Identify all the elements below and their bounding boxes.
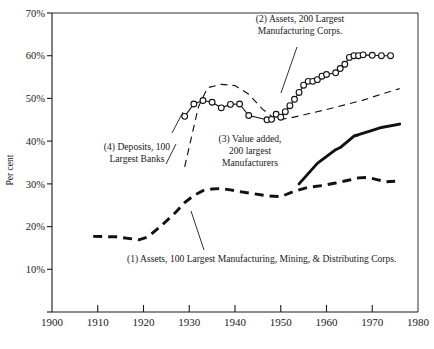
annotation-3-line-2: 200 largest [229, 145, 272, 156]
data-point-marker [246, 113, 252, 119]
x-tick-label: 1910 [87, 316, 110, 328]
x-tick-label: 1970 [361, 316, 384, 328]
data-point-marker [324, 72, 330, 78]
y-axis-ticks [47, 13, 52, 312]
data-point-marker [218, 105, 224, 111]
x-axis-ticks [98, 305, 373, 312]
x-axis-tick-labels: 1900 1910 1920 1930 1940 1950 1960 1970 … [41, 316, 430, 328]
series-4-deposits-100-largest-banks [185, 84, 400, 166]
y-axis-tick-labels: 10% 20% 30% 40% 50% 60% 70% [26, 8, 46, 275]
y-tick-label: 30% [26, 179, 46, 190]
data-point-marker [342, 61, 348, 67]
annotation-2-line-2: Manufacturing Corps. [258, 25, 343, 36]
annotation-4-line-1: (4) Deposits, 100 [104, 141, 171, 153]
annotation-2-line-1: (2) Assets, 200 Largest [256, 13, 345, 25]
x-tick-label: 1930 [178, 316, 201, 328]
chart-container: 10% 20% 30% 40% 50% 60% 70% 1900 1910 19… [0, 0, 434, 349]
data-point-marker [287, 103, 293, 109]
data-point-marker [228, 102, 234, 108]
y-tick-label: 50% [26, 93, 46, 104]
annotation-2: (2) Assets, 200 Largest Manufacturing Co… [256, 13, 345, 36]
y-tick-label: 10% [26, 264, 46, 275]
data-point-marker [379, 53, 385, 59]
x-tick-label: 1980 [407, 316, 430, 328]
y-tick-label: 40% [26, 136, 46, 147]
x-tick-label: 1940 [224, 316, 247, 328]
data-point-marker [360, 52, 366, 58]
y-axis-title: Per cent [5, 154, 15, 185]
data-point-marker [200, 98, 206, 104]
annotation-4-line-2: Largest Banks [110, 153, 165, 164]
x-tick-label: 1920 [133, 316, 156, 328]
series-2-markers [182, 52, 394, 123]
y-tick-label: 20% [26, 221, 46, 232]
data-point-marker [296, 90, 302, 96]
economic-concentration-line-chart: 10% 20% 30% 40% 50% 60% 70% 1900 1910 19… [0, 0, 434, 349]
annotation-4: (4) Deposits, 100 Largest Banks [104, 112, 183, 164]
annotation-3-line-1: (3) Value added, [219, 133, 282, 145]
data-point-marker [278, 114, 284, 120]
data-point-marker [237, 101, 243, 107]
series-1-assets-100-largest [93, 177, 395, 239]
annotation-1: (1) Assets, 100 Largest Manufacturing, M… [127, 253, 397, 265]
annotation-3: (3) Value added, 200 largest Manufacture… [219, 133, 282, 168]
data-point-marker [369, 52, 375, 58]
annotation-3-line-3: Manufacturers [222, 157, 278, 168]
y-tick-label: 70% [26, 8, 46, 19]
x-tick-label: 1960 [316, 316, 339, 328]
data-point-marker [292, 96, 298, 102]
data-point-marker [182, 113, 188, 119]
series-3-value-added-200-largest [299, 124, 400, 184]
x-tick-label: 1900 [41, 316, 64, 328]
data-point-marker [209, 99, 215, 105]
x-tick-label: 1950 [270, 316, 293, 328]
data-point-marker [388, 53, 394, 59]
data-point-marker [191, 101, 197, 107]
y-tick-label: 60% [26, 50, 46, 61]
data-point-marker [269, 116, 275, 122]
data-point-marker [282, 109, 288, 115]
annotation-1-line-1: (1) Assets, 100 Largest Manufacturing, M… [127, 253, 397, 265]
